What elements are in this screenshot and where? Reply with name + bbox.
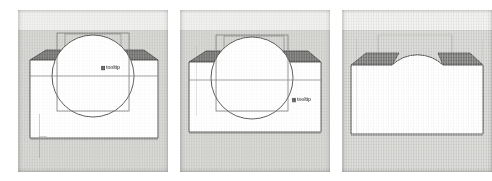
model-canvas-3[interactable] — [342, 10, 492, 172]
viewport-annotation-2: tooltip — [292, 96, 311, 102]
viewport-panel-2[interactable]: tooltip — [180, 10, 330, 172]
box-top-face-left-3 — [351, 53, 399, 65]
viewport-annotation-1: tooltip — [101, 64, 120, 70]
annotation-label: tooltip — [106, 64, 120, 70]
model-canvas-2[interactable] — [180, 10, 330, 172]
box-top-face-right-3 — [438, 53, 483, 65]
annotation-label: tooltip — [297, 96, 311, 102]
viewport-panel-3[interactable] — [342, 10, 492, 172]
annotation-swatch-icon — [292, 98, 296, 102]
viewport-panel-1[interactable]: tooltip — [18, 10, 168, 172]
annotation-swatch-icon — [101, 66, 105, 70]
model-canvas-1[interactable] — [18, 10, 168, 172]
union-solid-3 — [351, 55, 483, 134]
sphere-outline-2 — [211, 37, 293, 119]
